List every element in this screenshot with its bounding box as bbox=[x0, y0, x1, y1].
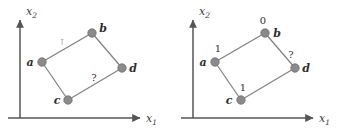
node-label-d: d bbox=[129, 62, 137, 75]
node-d[interactable] bbox=[118, 64, 126, 72]
panel-left: x2 x1 a b c d ⊺ ? bbox=[0, 0, 173, 133]
node-label-b: b bbox=[273, 27, 281, 40]
node-b[interactable] bbox=[261, 29, 269, 37]
edge-mark-ab-tick: ⊺ bbox=[60, 38, 64, 47]
edge-b-d bbox=[92, 33, 122, 68]
x-axis-label: x1 bbox=[146, 112, 157, 127]
node-label-c: c bbox=[54, 94, 61, 107]
node-a[interactable] bbox=[211, 58, 219, 66]
node-label-a: a bbox=[199, 56, 206, 69]
y-axis-label: x2 bbox=[26, 5, 37, 20]
node-label-c: c bbox=[226, 94, 233, 107]
node-d[interactable] bbox=[291, 64, 299, 72]
node-a[interactable] bbox=[38, 58, 46, 66]
x-axis-label: x1 bbox=[319, 112, 330, 127]
node-label-d: d bbox=[302, 62, 310, 75]
two-panel-coordinate-diagram: x2 x1 a b c d ⊺ ? bbox=[0, 0, 346, 133]
panel-left-canvas: x2 x1 a b c d ⊺ ? bbox=[0, 0, 173, 133]
node-value-d: ? bbox=[288, 49, 293, 60]
node-label-b: b bbox=[99, 22, 107, 35]
panel-right: x2 x1 a b c d 1 0 1 ? bbox=[173, 0, 346, 133]
node-c[interactable] bbox=[237, 96, 245, 104]
node-c[interactable] bbox=[64, 96, 72, 104]
node-value-b: 0 bbox=[260, 15, 266, 26]
node-value-c: 1 bbox=[240, 82, 246, 93]
y-axis-label: x2 bbox=[199, 5, 210, 20]
panel-right-canvas: x2 x1 a b c d 1 0 1 ? bbox=[173, 0, 346, 133]
edge-mark-cd-question: ? bbox=[91, 72, 96, 83]
edge-a-b bbox=[42, 33, 92, 62]
node-value-a: 1 bbox=[215, 43, 221, 54]
node-b[interactable] bbox=[88, 29, 96, 37]
node-label-a: a bbox=[26, 56, 33, 69]
edge-a-b bbox=[215, 33, 265, 62]
edge-c-d bbox=[241, 68, 295, 100]
